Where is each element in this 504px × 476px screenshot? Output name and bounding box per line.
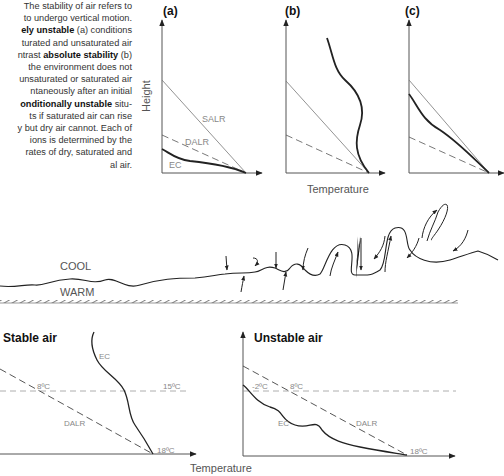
stable-ec-curve [92, 332, 153, 454]
stability-diagram: (a) SALR DALR EC Height (b) (c) Temperat… [0, 0, 504, 476]
panel-c-salr-line [409, 80, 489, 173]
panel-c-ec-curve [409, 94, 489, 173]
down-arrow [303, 248, 308, 270]
stable-temp-8c: 8ºC [37, 382, 50, 391]
panel-a-salr-label: SALR [202, 114, 226, 124]
panel-a: (a) SALR DALR EC [162, 4, 262, 173]
down-arrow [453, 230, 468, 251]
down-arrow [226, 256, 227, 270]
panel-a-ec-label: EC [169, 160, 182, 170]
down-arrow [374, 236, 385, 259]
stable-ec-label: EC [99, 352, 110, 361]
up-arrow [385, 236, 391, 272]
curl-arrow [253, 258, 257, 266]
cool-label: COOL [60, 260, 91, 272]
ground-surface [0, 300, 458, 303]
panel-c-dalr-line [409, 137, 489, 173]
stable-air-panel: Stable air EC DALR 8ºC 15ºC 18ºC [0, 331, 196, 455]
panel-b-ec-curve [327, 38, 369, 173]
wave-boundary [0, 227, 498, 286]
unstable-ec-curve [243, 385, 407, 455]
up-arrow [330, 252, 338, 276]
unstable-dalr-line [243, 366, 407, 455]
up-arrow [241, 276, 244, 292]
panel-b: (b) [285, 4, 385, 173]
stable-temp-18c: 18ºC [157, 446, 175, 455]
stable-temp-15c: 15ºC [163, 382, 181, 391]
unstable-dalr-label: DALR [356, 419, 378, 428]
unstable-ec-label: EC [278, 419, 289, 428]
unstable-temp-18c: 18ºC [410, 447, 428, 456]
panel-a-label: (a) [163, 4, 178, 18]
unstable-air-title: Unstable air [254, 331, 323, 345]
unstable-air-panel: Unstable air EC DALR -2ºC 8ºC 18ºC [243, 331, 456, 456]
inversion-wave [0, 204, 498, 292]
panel-b-label: (b) [285, 4, 300, 18]
plume-loop [427, 204, 448, 241]
unstable-temp-minus2c: -2ºC [252, 382, 268, 391]
panel-c-label: (c) [405, 4, 420, 18]
stable-air-title: Stable air [3, 331, 57, 345]
bottom-temperature-axis-label: Temperature [190, 462, 252, 474]
panel-c: (c) [405, 4, 504, 173]
stable-dalr-label: DALR [64, 419, 86, 428]
up-arrow [283, 272, 286, 290]
top-temperature-axis-label: Temperature [307, 183, 369, 195]
height-axis-label: Height [140, 80, 152, 112]
warm-label: WARM [60, 286, 94, 298]
unstable-temp-8c: 8ºC [290, 382, 303, 391]
panel-a-dalr-label: DALR [185, 137, 210, 147]
